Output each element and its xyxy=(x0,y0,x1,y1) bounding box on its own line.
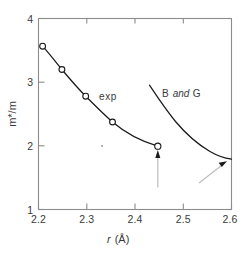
data-point xyxy=(40,43,46,49)
y-tick-label: 4 xyxy=(27,13,33,25)
svg-text:r(Å): r(Å) xyxy=(107,233,129,245)
x-tick-labels: 2.2 2.3 2.4 2.5 2.6 xyxy=(31,213,238,225)
exp-endpoint-arrow xyxy=(155,150,160,188)
b-and-g-part-2: and xyxy=(173,88,190,99)
scan-speck xyxy=(101,145,103,147)
chart-canvas: exp B and G 4 3 2 1 2.2 2.3 2.4 2.5 2.6 … xyxy=(0,0,249,254)
x-tick-label: 2.4 xyxy=(127,213,142,225)
x-axis-title-unit: (Å) xyxy=(115,233,130,245)
data-point xyxy=(59,67,65,73)
chart-figure: exp B and G 4 3 2 1 2.2 2.3 2.4 2.5 2.6 … xyxy=(0,0,249,254)
y-tick-label: 3 xyxy=(27,76,33,88)
x-tick-label: 2.5 xyxy=(176,213,191,225)
data-point xyxy=(155,143,161,149)
data-point xyxy=(110,119,116,125)
data-point xyxy=(83,93,89,99)
x-tick-label: 2.6 xyxy=(222,213,237,225)
series-label-exp: exp xyxy=(99,91,117,102)
series-label-b-and-g: B and G xyxy=(162,88,201,99)
x-axis-title: r(Å) xyxy=(107,233,129,245)
b-and-g-endpoint-arrow xyxy=(199,161,227,183)
svg-text:B and G: B and G xyxy=(162,88,201,99)
x-tick-label: 2.2 xyxy=(31,213,46,225)
x-tick-label: 2.3 xyxy=(79,213,94,225)
y-tick-label: 2 xyxy=(27,140,33,152)
b-and-g-part-3: G xyxy=(189,88,201,99)
x-axis-title-symbol: r xyxy=(107,233,112,245)
y-tick-labels: 4 3 2 1 xyxy=(27,13,33,216)
b-and-g-part-1: B xyxy=(162,88,173,99)
y-axis-title-text: m*/m xyxy=(6,101,18,127)
y-axis-title: m*/m xyxy=(6,101,18,127)
